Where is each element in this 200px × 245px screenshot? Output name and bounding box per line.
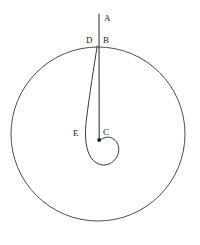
point-label-d: D	[86, 36, 93, 45]
point-label-a: A	[104, 14, 111, 23]
point-label-b: B	[103, 36, 109, 45]
figure-canvas: A B D C E	[0, 0, 200, 245]
point-label-c: C	[103, 128, 109, 137]
center-dot-c-shape	[97, 138, 101, 142]
geometry-diagram	[0, 0, 200, 245]
spiral-shape	[86, 46, 119, 165]
outer-circle-shape	[11, 47, 185, 221]
point-label-e: E	[73, 129, 79, 138]
